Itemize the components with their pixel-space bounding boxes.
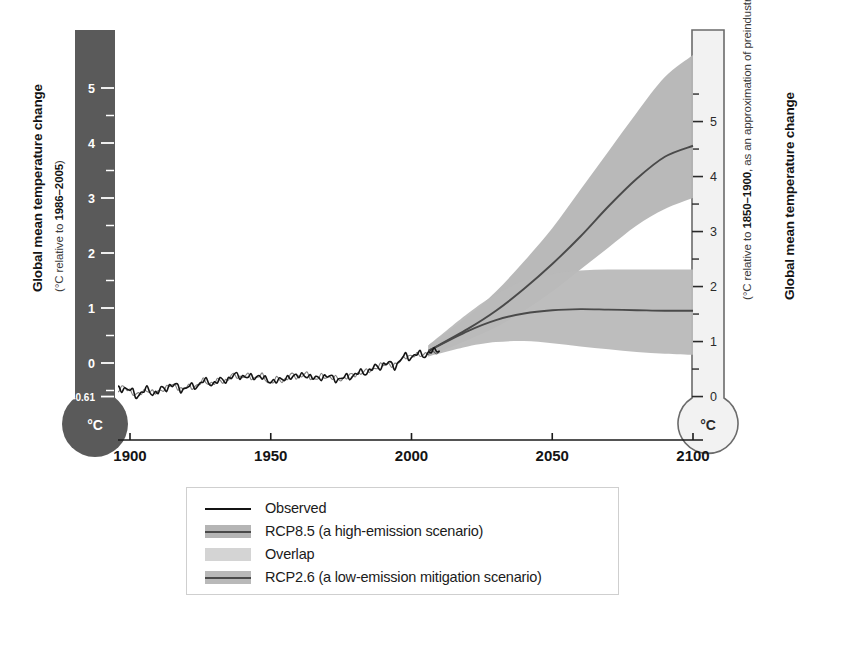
legend-item[interactable]: Overlap: [205, 543, 618, 566]
left-tick-label: 1: [88, 302, 95, 316]
right-tick-label: 4: [710, 170, 717, 184]
left-tick-label: 4: [88, 137, 95, 151]
left-thermometer-unit: °C: [87, 417, 103, 433]
x-axis-ticks: 19001950200020502100: [113, 433, 709, 464]
legend-swatch-rcp26: [205, 571, 251, 584]
left-tick-label: 3: [88, 192, 95, 206]
left-tick-label: 2: [88, 247, 95, 261]
legend-swatch-rcp85: [205, 525, 251, 538]
legend-label-overlap: Overlap: [265, 547, 314, 562]
right-tick-label: 1: [710, 335, 717, 349]
legend-item[interactable]: Observed: [205, 497, 618, 520]
legend-label-observed: Observed: [265, 501, 326, 516]
climate-projection-figure: Global mean temperature change (°C relat…: [0, 0, 842, 647]
x-tick-label: 2050: [536, 447, 569, 464]
left-tick-label: 5: [88, 82, 95, 96]
rcp26-uncertainty-band: [428, 269, 693, 356]
legend-swatch-overlap: [205, 548, 251, 561]
legend-label-rcp85: RCP8.5 (a high-emission scenario): [265, 524, 483, 539]
left-tick-label: 0: [88, 357, 95, 371]
series-layer: [102, 55, 693, 398]
right-thermometer-unit: °C: [700, 417, 716, 433]
right-tick-label: 2: [710, 280, 717, 294]
legend-item[interactable]: RCP2.6 (a low-emission mitigation scenar…: [205, 566, 618, 589]
legend-label-rcp26: RCP2.6 (a low-emission mitigation scenar…: [265, 570, 542, 585]
legend-swatch-observed: [205, 502, 251, 515]
left-tick-label: -0.61: [72, 392, 95, 403]
legend-item[interactable]: RCP8.5 (a high-emission scenario): [205, 520, 618, 543]
x-tick-label: 2100: [676, 447, 709, 464]
x-tick-label: 1950: [254, 447, 287, 464]
left-thermometer: °C 543210-0.61: [62, 30, 128, 457]
x-tick-label: 1900: [113, 447, 146, 464]
observed-line-secondary: [102, 350, 440, 396]
legend: Observed RCP8.5 (a high-emission scenari…: [186, 487, 619, 595]
x-tick-label: 2000: [395, 447, 428, 464]
x-axis: 19001950200020502100: [113, 433, 709, 464]
right-tick-label: 5: [710, 115, 717, 129]
right-tick-label: 3: [710, 225, 717, 239]
right-tick-label: 0: [710, 390, 717, 404]
observed-line: [102, 348, 440, 399]
